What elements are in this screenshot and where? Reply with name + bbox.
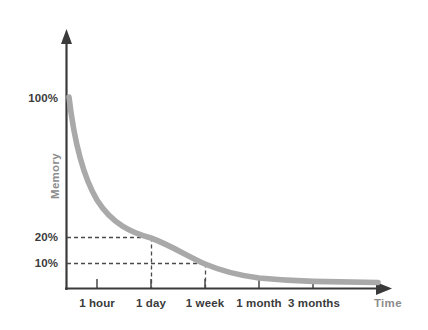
retention-curve <box>69 97 378 283</box>
y-axis <box>61 29 72 290</box>
y-axis-title: Memory <box>49 153 61 199</box>
y-tick-label-20: 20% <box>12 231 58 243</box>
x-tick-label-3-months: 3 months <box>275 297 353 309</box>
forgetting-curve-chart: 100% 20% 10% Memory 1 hour 1 day 1 week … <box>0 0 428 330</box>
chart-plot-area <box>0 0 428 330</box>
guide-lines <box>67 238 206 289</box>
y-tick-label-10: 10% <box>12 257 58 269</box>
y-tick-label-100: 100% <box>12 92 58 104</box>
x-axis-title: Time <box>374 297 402 309</box>
